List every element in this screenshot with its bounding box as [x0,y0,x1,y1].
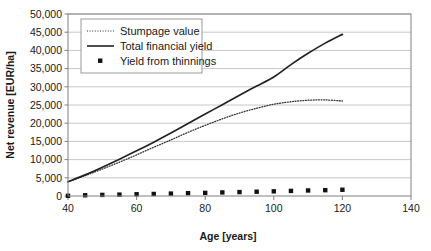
data-marker [254,190,258,194]
y-tick-label: 20,000 [30,117,62,129]
data-marker [272,189,276,193]
data-marker [289,189,293,193]
x-tick-label: 100 [265,202,283,214]
x-tick-label: 60 [131,202,143,214]
legend-swatch-yield-from-thinnings [98,59,102,63]
x-tick-label: 40 [62,202,74,214]
data-marker [169,191,173,195]
data-marker [220,190,224,194]
y-tick-label: 40,000 [30,44,62,56]
x-tick-label: 140 [402,202,420,214]
x-tick-label: 120 [334,202,352,214]
y-tick-label: 45,000 [30,26,62,38]
y-tick-label: 50,000 [30,8,62,20]
legend-label-yield-from-thinnings: Yield from thinnings [120,55,217,67]
data-marker [237,190,241,194]
legend-label-total-financial-yield: Total financial yield [120,40,212,52]
y-axis-title: Net revenue [EUR/ha] [4,51,16,158]
legend-label-stumpage-value: Stumpage value [120,25,200,37]
data-marker [340,188,344,192]
y-tick-label: 25,000 [30,99,62,111]
chart-container: 05,00010,00015,00020,00025,00030,00035,0… [0,0,431,251]
y-tick-label: 15,000 [30,135,62,147]
net-revenue-line-chart: 05,00010,00015,00020,00025,00030,00035,0… [0,0,431,251]
y-tick-label: 35,000 [30,62,62,74]
x-tick-label: 80 [199,202,211,214]
data-marker [186,191,190,195]
y-tick-label: 10,000 [30,153,62,165]
data-marker [83,193,87,197]
chart-legend: Stumpage value Total financial yield Yie… [81,19,217,73]
y-tick-label: 30,000 [30,81,62,93]
data-marker [152,192,156,196]
data-marker [323,188,327,192]
y-tick-label: 0 [56,190,62,202]
data-marker [306,188,310,192]
y-tick-label: 5,000 [36,172,62,184]
data-marker [203,191,207,195]
x-axis-title: Age [years] [199,230,256,242]
